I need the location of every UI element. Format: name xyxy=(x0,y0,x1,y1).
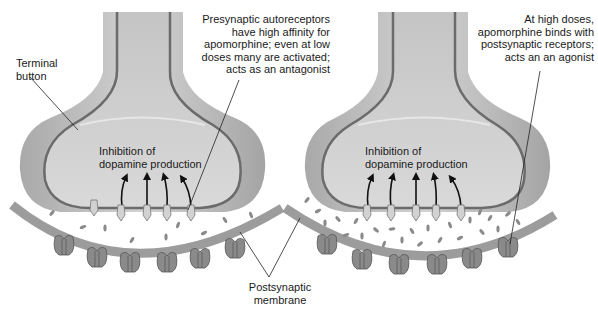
terminal-button-label: Terminal button xyxy=(16,57,58,82)
low-dose-annotation: Presynaptic autoreceptors have high affi… xyxy=(202,13,330,76)
inhibition-label-left: Inhibition of dopamine production xyxy=(99,145,202,170)
postsynaptic-membrane-label: Postsynaptic membrane xyxy=(240,281,320,306)
inhibition-label-right: Inhibition of dopamine production xyxy=(365,145,468,170)
high-dose-annotation: At high doses, apomorphine binds with po… xyxy=(478,13,594,63)
